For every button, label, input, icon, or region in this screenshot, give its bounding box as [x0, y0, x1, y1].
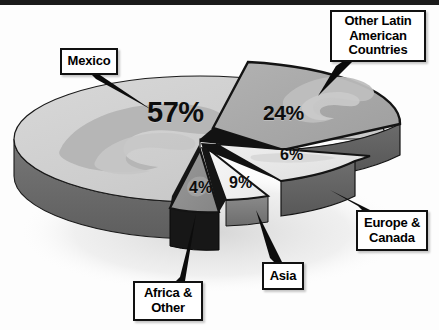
- slice-value-europe-canada: 6%: [280, 146, 303, 164]
- slice-value-other-latin-american: 24%: [263, 101, 304, 125]
- slice-value-mexico: 57%: [147, 96, 204, 129]
- callout-text-africa-line1: Africa &: [144, 286, 192, 301]
- callout-text-europe-line1: Europe &: [364, 216, 420, 231]
- callout-text-olac-line1: Other Latin: [344, 14, 411, 29]
- slice-value-africa-other: 4%: [189, 179, 212, 197]
- callout-label-other-latin-american: Other Latin American Countries: [330, 10, 426, 62]
- callout-text-africa-line2: Other: [144, 301, 192, 316]
- callout-label-asia: Asia: [262, 262, 304, 290]
- slice-value-asia: 9%: [229, 174, 252, 192]
- callout-text-asia: Asia: [270, 269, 297, 284]
- callout-text-europe-line2: Canada: [364, 231, 420, 246]
- chart-stage: 57% 24% 6% 9% 4% Mexico Other Latin Amer…: [0, 0, 439, 330]
- slice-side-africa: [170, 208, 219, 250]
- callout-text-mexico: Mexico: [68, 54, 111, 69]
- callout-label-africa-other: Africa & Other: [133, 281, 203, 321]
- callout-label-mexico: Mexico: [60, 48, 118, 75]
- callout-text-olac-line3: Countries: [344, 43, 411, 58]
- callout-label-europe-canada: Europe & Canada: [356, 210, 428, 251]
- callout-text-olac-line2: American: [344, 29, 411, 44]
